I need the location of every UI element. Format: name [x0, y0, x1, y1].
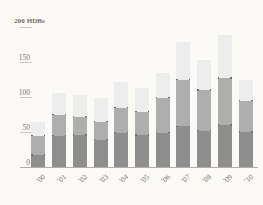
segment-boundary-marker	[148, 111, 150, 113]
segment-boundary-marker	[197, 89, 199, 91]
segment-boundary-marker	[94, 139, 96, 141]
bar-06	[156, 73, 170, 167]
bar-segment-middle	[197, 90, 211, 131]
segment-boundary-marker	[251, 131, 253, 133]
y-tick-label-0: 0	[0, 158, 30, 167]
bar-segment-upper	[156, 73, 170, 98]
segment-boundary-marker	[114, 132, 116, 134]
y-tick-label-50: 50	[0, 123, 30, 132]
bar-08	[197, 60, 211, 167]
bar-segment-lower	[197, 131, 211, 167]
bar-04	[114, 82, 128, 167]
segment-boundary-marker	[239, 131, 241, 133]
segment-boundary-marker	[52, 135, 54, 137]
bar-10	[239, 80, 253, 167]
bar-segment-middle	[156, 98, 170, 133]
segment-boundary-marker	[52, 114, 54, 116]
bar-07	[176, 42, 190, 167]
y-tick-label-100: 100	[0, 88, 30, 97]
bar-segment-middle	[31, 136, 45, 156]
stacked-bar-chart: 200 HDBs 050100150 '00'01'02'03'04'05'06…	[0, 0, 263, 205]
bar-segment-upper	[135, 88, 149, 112]
segment-boundary-marker	[218, 124, 220, 126]
bar-segment-upper	[114, 82, 128, 108]
bar-02	[73, 95, 87, 167]
x-tick-label-09: '09	[217, 169, 238, 188]
bar-segment-lower	[52, 136, 66, 168]
bar-segment-upper	[31, 122, 45, 135]
segment-boundary-marker	[114, 107, 116, 109]
segment-boundary-marker	[197, 130, 199, 132]
bar-segment-lower	[239, 132, 253, 167]
segment-boundary-marker	[230, 77, 232, 79]
segment-boundary-marker	[251, 100, 253, 102]
bar-segment-lower	[31, 155, 45, 167]
segment-boundary-marker	[31, 135, 33, 137]
segment-boundary-marker	[127, 132, 129, 134]
bar-segment-middle	[135, 112, 149, 135]
bar-segment-lower	[156, 133, 170, 167]
segment-boundary-marker	[65, 135, 67, 137]
bar-01	[52, 93, 66, 167]
bar-segment-middle	[218, 78, 232, 125]
bar-segment-middle	[73, 117, 87, 135]
segment-boundary-marker	[239, 100, 241, 102]
segment-boundary-marker	[65, 114, 67, 116]
bar-segment-upper	[176, 42, 190, 79]
bar-segment-lower	[135, 135, 149, 167]
segment-boundary-marker	[135, 111, 137, 113]
segment-boundary-marker	[168, 97, 170, 99]
segment-boundary-marker	[85, 116, 87, 118]
segment-boundary-marker	[44, 135, 46, 137]
x-tick-label-00: '00	[30, 169, 51, 188]
bar-segment-middle	[52, 115, 66, 136]
bar-09	[218, 35, 232, 167]
segment-boundary-marker	[106, 121, 108, 123]
bar-segment-upper	[218, 35, 232, 78]
x-tick-label-03: '03	[93, 169, 114, 188]
y-axis-top-label: 200 HDBs	[14, 17, 45, 25]
x-tick-label-04: '04	[113, 169, 134, 188]
segment-boundary-marker	[176, 79, 178, 81]
bar-segment-middle	[114, 108, 128, 133]
bar-segment-middle	[176, 80, 190, 127]
bar-segment-lower	[73, 135, 87, 167]
bar-05	[135, 88, 149, 167]
bar-segment-lower	[176, 126, 190, 167]
segment-boundary-marker	[218, 77, 220, 79]
segment-boundary-marker	[168, 132, 170, 134]
x-axis-baseline	[20, 167, 258, 168]
bar-segment-middle	[239, 101, 253, 133]
bar-segment-upper	[197, 60, 211, 90]
segment-boundary-marker	[73, 116, 75, 118]
bar-segment-upper	[239, 80, 253, 100]
segment-boundary-marker	[127, 107, 129, 109]
y-tick-label-150: 150	[0, 53, 30, 62]
x-tick-label-05: '05	[134, 169, 155, 188]
gridline-100	[20, 97, 32, 98]
gridline-50	[20, 132, 32, 133]
segment-boundary-marker	[106, 139, 108, 141]
segment-boundary-marker	[210, 130, 212, 132]
gridline-200	[20, 27, 32, 28]
bar-segment-lower	[218, 125, 232, 167]
gridline-150	[20, 62, 32, 63]
segment-boundary-marker	[44, 154, 46, 156]
segment-boundary-marker	[148, 134, 150, 136]
segment-boundary-marker	[210, 89, 212, 91]
bar-00	[31, 122, 45, 167]
bar-segment-upper	[52, 93, 66, 115]
x-tick-label-08: '08	[196, 169, 217, 188]
bar-segment-lower	[94, 140, 108, 167]
bar-segment-middle	[94, 122, 108, 140]
bar-segment-upper	[73, 95, 87, 117]
segment-boundary-marker	[31, 154, 33, 156]
x-tick-label-06: '06	[155, 169, 176, 188]
segment-boundary-marker	[189, 79, 191, 81]
segment-boundary-marker	[73, 134, 75, 136]
x-tick-label-07: '07	[176, 169, 197, 188]
bar-03	[94, 98, 108, 167]
bar-segment-lower	[114, 133, 128, 167]
segment-boundary-marker	[189, 126, 191, 128]
bar-segment-upper	[94, 98, 108, 121]
